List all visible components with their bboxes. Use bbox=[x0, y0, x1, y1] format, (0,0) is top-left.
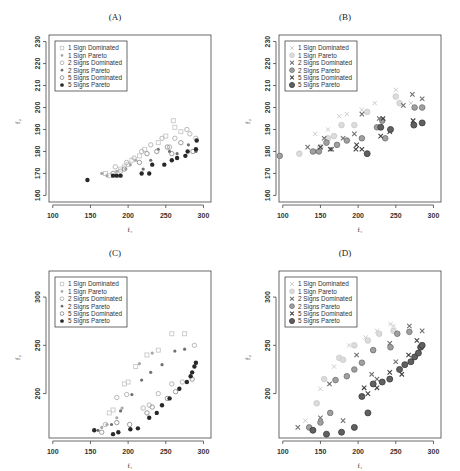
panel-d: (D) 100150200250300f₁200250300f₂1 Sign D… bbox=[230, 236, 460, 471]
series-2-signs-dominated bbox=[296, 324, 425, 430]
svg-text:250: 250 bbox=[34, 339, 41, 351]
series-1-sign-dominated bbox=[303, 322, 396, 423]
svg-text:f₂: f₂ bbox=[14, 355, 22, 360]
svg-text:100: 100 bbox=[277, 212, 289, 219]
svg-text:300: 300 bbox=[34, 291, 41, 303]
legend: 1 Sign Dominated1 Sign Pareto2 Signs Dom… bbox=[55, 41, 127, 91]
svg-text:150: 150 bbox=[85, 212, 97, 219]
svg-text:190: 190 bbox=[264, 124, 271, 136]
panel-b: (B) 100150200250300f₁1601701801902002102… bbox=[230, 0, 460, 235]
series-2-signs-dominated bbox=[305, 92, 424, 154]
svg-text:200: 200 bbox=[34, 388, 41, 400]
svg-text:230: 230 bbox=[264, 36, 271, 48]
svg-text:200: 200 bbox=[352, 212, 364, 219]
svg-text:210: 210 bbox=[264, 80, 271, 92]
svg-text:180: 180 bbox=[34, 146, 41, 158]
scatter-plot-d: 100150200250300f₁200250300f₂1 Sign Domin… bbox=[230, 236, 460, 471]
x-axis: 100150200250300f₁ bbox=[277, 441, 439, 470]
svg-text:300: 300 bbox=[198, 212, 210, 219]
svg-text:f₁: f₁ bbox=[358, 462, 363, 470]
svg-text:180: 180 bbox=[264, 146, 271, 158]
svg-text:f₂: f₂ bbox=[244, 355, 252, 360]
series-1-sign-pareto bbox=[297, 94, 403, 157]
series-5-signs-pareto bbox=[310, 342, 425, 437]
svg-text:300: 300 bbox=[428, 448, 440, 455]
x-axis: 100150200250300f₁ bbox=[47, 441, 209, 470]
y-axis: 160170180190200210220230f₂ bbox=[244, 36, 276, 202]
svg-text:250: 250 bbox=[160, 448, 172, 455]
svg-text:f₁: f₁ bbox=[128, 226, 133, 234]
series-1-sign-dominated bbox=[107, 332, 186, 415]
svg-text:f₁: f₁ bbox=[128, 462, 133, 470]
svg-text:200: 200 bbox=[264, 102, 271, 114]
series-5-signs-pareto bbox=[364, 120, 425, 157]
svg-text:200: 200 bbox=[122, 212, 134, 219]
svg-text:200: 200 bbox=[122, 448, 134, 455]
svg-text:170: 170 bbox=[34, 167, 41, 179]
y-axis: 200250300f₂ bbox=[244, 291, 276, 399]
svg-text:5 Signs Pareto: 5 Signs Pareto bbox=[68, 81, 110, 89]
svg-text:5 Signs Pareto: 5 Signs Pareto bbox=[298, 317, 340, 325]
svg-text:100: 100 bbox=[277, 448, 289, 455]
panel-a: (A) 100150200250300f₁1601701801902002102… bbox=[0, 0, 230, 235]
svg-text:160: 160 bbox=[264, 189, 271, 201]
svg-text:250: 250 bbox=[160, 212, 172, 219]
svg-text:170: 170 bbox=[264, 167, 271, 179]
svg-text:200: 200 bbox=[352, 448, 364, 455]
svg-text:150: 150 bbox=[315, 448, 327, 455]
scatter-plot-b: 100150200250300f₁16017018019020021022023… bbox=[230, 0, 460, 235]
svg-text:300: 300 bbox=[198, 448, 210, 455]
series-2-signs-pareto bbox=[96, 348, 186, 432]
svg-text:250: 250 bbox=[390, 448, 402, 455]
svg-text:210: 210 bbox=[34, 80, 41, 92]
panel-c: (C) 100150200250300f₁200250300f₂1 Sign D… bbox=[0, 236, 230, 471]
svg-text:190: 190 bbox=[34, 124, 41, 136]
svg-text:230: 230 bbox=[34, 36, 41, 48]
svg-text:200: 200 bbox=[264, 388, 271, 400]
svg-text:150: 150 bbox=[85, 448, 97, 455]
svg-text:100: 100 bbox=[47, 212, 59, 219]
svg-text:f₂: f₂ bbox=[14, 119, 22, 124]
svg-text:f₂: f₂ bbox=[244, 119, 252, 124]
scatter-plot-a: 100150200250300f₁16017018019020021022023… bbox=[0, 0, 230, 235]
svg-text:5 Signs Pareto: 5 Signs Pareto bbox=[298, 81, 340, 89]
legend: 1 Sign Dominated1 Sign Pareto2 Signs Dom… bbox=[285, 41, 357, 91]
y-axis: 160170180190200210220230f₂ bbox=[14, 36, 46, 202]
series-1-sign-pareto bbox=[100, 351, 154, 429]
x-axis: 100150200250300f₁ bbox=[47, 205, 209, 234]
svg-text:300: 300 bbox=[428, 212, 440, 219]
svg-text:250: 250 bbox=[264, 339, 271, 351]
y-axis: 200250300f₂ bbox=[14, 291, 46, 399]
scatter-plot-c: 100150200250300f₁200250300f₂1 Sign Domin… bbox=[0, 236, 230, 471]
svg-text:220: 220 bbox=[34, 58, 41, 70]
svg-text:200: 200 bbox=[34, 102, 41, 114]
svg-text:f₁: f₁ bbox=[358, 226, 363, 234]
series-2-signs-dominated bbox=[103, 343, 196, 427]
svg-text:100: 100 bbox=[47, 448, 59, 455]
svg-text:150: 150 bbox=[315, 212, 327, 219]
svg-text:5 Signs Pareto: 5 Signs Pareto bbox=[68, 317, 110, 325]
legend: 1 Sign Dominated1 Sign Pareto2 Signs Dom… bbox=[55, 277, 127, 327]
svg-text:220: 220 bbox=[264, 58, 271, 70]
x-axis: 100150200250300f₁ bbox=[277, 205, 439, 234]
svg-text:250: 250 bbox=[390, 212, 402, 219]
svg-text:160: 160 bbox=[34, 189, 41, 201]
svg-text:300: 300 bbox=[264, 291, 271, 303]
legend: 1 Sign Dominated1 Sign Pareto2 Signs Dom… bbox=[285, 277, 357, 327]
